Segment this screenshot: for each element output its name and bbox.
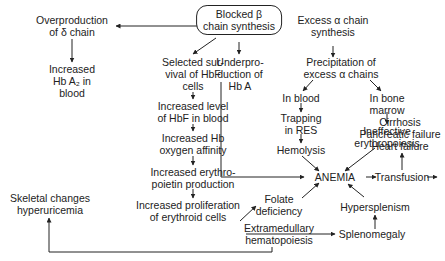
node-increased-hbf: Increased level of HbF in blood [157, 100, 228, 124]
edge-hemolysis-to-anemia [302, 156, 319, 171]
node-line: Selected sur- [162, 56, 224, 68]
node-underproduction-hba: Underpro- duction of Hb A [216, 56, 263, 92]
node-blocked-beta-chain-synthesis: Blocked β chain synthesis [196, 5, 282, 35]
node-line: hyperuricemia [10, 204, 90, 216]
node-line: Pancreatic failure [359, 128, 440, 140]
node-line: Overproduction [36, 14, 108, 26]
node-line: Hb A [216, 80, 263, 92]
node-anemia: ANEMIA [315, 171, 355, 183]
node-hypersplenism: Hypersplenism [340, 201, 409, 213]
node-line: synthesis [298, 26, 369, 38]
node-extramedullary-hematopoiesis: Extramedullary hematopoiesis [244, 222, 314, 246]
node-line: blood [49, 87, 95, 99]
node-line: In bone [369, 92, 404, 104]
node-splenomegaly: Splenomegaly [339, 228, 406, 240]
node-line: deficiency [256, 205, 303, 217]
node-line: Folate [256, 193, 303, 205]
node-line: of δ chain [36, 26, 108, 38]
node-line: Increased [49, 63, 95, 75]
node-line: Extramedullary [244, 222, 314, 234]
node-trapping-res: Trapping in RES [280, 112, 321, 136]
node-line: cells [162, 80, 224, 92]
node-line: Blocked β [203, 8, 275, 20]
node-in-bone-marrow: In bone marrow [369, 92, 404, 116]
node-line: in RES [280, 124, 321, 136]
node-increased-erythropoietin: Increased erythro- poietin production [150, 166, 235, 190]
node-complications: Cirrhosis Pancreatic failure Heart failu… [359, 116, 440, 152]
node-line: Heart failure [359, 140, 440, 152]
node-increased-hba2: Increased Hb A₂ in blood [49, 63, 95, 99]
node-skeletal-changes: Skeletal changes hyperuricemia [10, 192, 90, 216]
node-line: Hb A₂ in [49, 75, 95, 87]
diagram-canvas: Blocked β chain synthesis Overproduction… [0, 0, 445, 261]
node-transfusion: Transfusion [375, 171, 429, 183]
node-increased-oxygen-affinity: Increased Hb oxygen affinity [160, 132, 227, 156]
node-line: hematopoiesis [244, 234, 314, 246]
node-precipitation-alpha: Precipitation of excess α chains [304, 56, 379, 80]
node-increased-proliferation: Increased proliferation of erythroid cel… [136, 199, 240, 223]
edge-precipitation-to-in-blood [303, 80, 313, 91]
node-line: Skeletal changes [10, 192, 90, 204]
node-excess-alpha-synthesis: Excess α chain synthesis [298, 14, 369, 38]
node-line: duction of [216, 68, 263, 80]
node-in-blood: In blood [282, 92, 319, 104]
node-line: chain synthesis [203, 20, 275, 32]
node-line: In blood [282, 92, 319, 104]
node-line: Hypersplenism [340, 201, 409, 213]
node-line: Precipitation of [304, 56, 379, 68]
node-line: Increased proliferation [136, 199, 240, 211]
edge-proliferation-to-folate [240, 206, 256, 221]
node-line: of erythroid cells [136, 211, 240, 223]
node-line: Excess α chain [298, 14, 369, 26]
node-line: Increased Hb [160, 132, 227, 144]
node-line: marrow [369, 104, 404, 116]
node-line: vival of HbF [162, 68, 224, 80]
node-line: of HbF in blood [157, 112, 228, 124]
edge-folate-to-anemia [302, 183, 319, 198]
node-overproduction-delta: Overproduction of δ chain [36, 14, 108, 38]
node-line: Increased level [157, 100, 228, 112]
node-line: oxygen affinity [160, 144, 227, 156]
node-line: Cirrhosis [359, 116, 440, 128]
node-line: poietin production [150, 178, 235, 190]
node-line: excess α chains [304, 68, 379, 80]
edge-hypersplenism-to-anemia [348, 184, 364, 197]
node-line: Underpro- [216, 56, 263, 68]
node-line: Hemolysis [277, 144, 325, 156]
node-line: ANEMIA [315, 171, 355, 183]
edge-extramedullary-to-skeletal [49, 218, 272, 252]
node-hemolysis: Hemolysis [277, 144, 325, 156]
node-selected-survival-hbf: Selected sur- vival of HbF cells [162, 56, 224, 92]
node-line: Increased erythro- [150, 166, 235, 178]
edge-blocked-to-selected-survival [193, 38, 216, 54]
node-line: Transfusion [375, 171, 429, 183]
node-line: Trapping [280, 112, 321, 124]
edge-precipitation-to-bone-marrow [370, 80, 381, 91]
node-folate-deficiency: Folate deficiency [256, 193, 303, 217]
node-line: Splenomegaly [339, 228, 406, 240]
